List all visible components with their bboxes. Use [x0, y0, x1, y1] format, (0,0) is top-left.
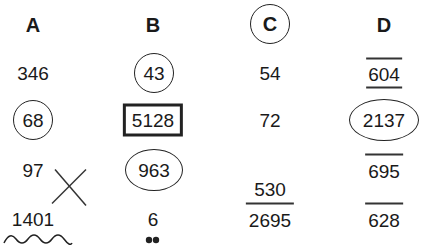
two-dots-icon	[144, 235, 164, 245]
cell-a2-circled: 68	[13, 100, 53, 140]
cell-c3-value: 530	[254, 179, 286, 200]
column-header-c-circled: C	[250, 4, 290, 44]
cell-b2-boxed: 5128	[123, 104, 183, 137]
cell-c4-overlined: 2695	[246, 203, 294, 230]
cell-c1: 54	[259, 64, 280, 83]
cell-d2-value: 2137	[363, 111, 405, 130]
column-header-b: B	[146, 15, 160, 35]
cell-b3-value: 963	[138, 161, 170, 180]
cell-b1-circled: 43	[134, 53, 174, 93]
cell-d1-overlined-underlined: 604	[366, 58, 402, 89]
column-header-c-label: C	[263, 14, 277, 34]
cell-a1: 346	[17, 64, 49, 83]
cell-b4: 6	[148, 210, 159, 229]
cell-a3-crossed-out: 97	[0, 161, 248, 180]
cell-d2-ellipsed: 2137	[349, 99, 419, 141]
cell-d4-overlined: 628	[365, 203, 403, 230]
cell-c3-crossed-out: 530	[55, 180, 430, 199]
cell-d3-overlined: 695	[365, 154, 403, 181]
cell-b1-value: 43	[143, 64, 164, 83]
cell-a3-value: 97	[22, 160, 43, 181]
cell-a4: 1401	[12, 210, 54, 229]
column-header-d: D	[377, 15, 391, 35]
wavy-underline-icon	[2, 231, 74, 245]
cell-a2-value: 68	[22, 111, 43, 130]
cross-out-icon	[52, 170, 88, 206]
cell-c2: 72	[259, 111, 280, 130]
column-header-a: A	[26, 15, 40, 35]
